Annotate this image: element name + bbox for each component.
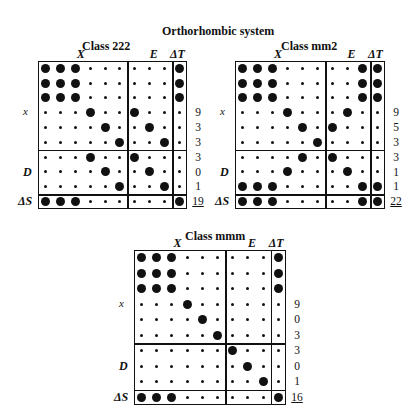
matrix-cell [113, 135, 128, 150]
large-dot-icon [253, 64, 262, 73]
small-dot-icon [262, 256, 265, 259]
matrix-cell [225, 266, 240, 282]
matrix-cell [157, 165, 172, 180]
matrix-cell [310, 120, 325, 135]
small-dot-icon [170, 318, 173, 321]
small-dot-icon [271, 156, 274, 159]
matrix-cell [127, 194, 142, 209]
matrix-cell [83, 105, 98, 120]
matrix-cell [210, 390, 225, 406]
matrix-cell [38, 91, 53, 106]
matrix-cell [280, 105, 295, 120]
small-dot-icon [361, 126, 364, 129]
small-dot-icon [331, 170, 334, 173]
small-dot-icon [346, 82, 349, 85]
large-dot-icon [253, 197, 262, 206]
small-dot-icon [231, 303, 234, 306]
small-dot-icon [178, 170, 181, 173]
matrix-cell [180, 250, 195, 266]
small-dot-icon [186, 256, 189, 259]
matrix-cell [310, 135, 325, 150]
matrix-cell [149, 390, 164, 406]
small-dot-icon [346, 67, 349, 70]
small-dot-icon [331, 96, 334, 99]
matrix-cell [180, 374, 195, 390]
matrix-cell [127, 150, 142, 165]
small-dot-icon [216, 349, 219, 352]
large-dot-icon [328, 123, 337, 132]
small-dot-icon [155, 334, 158, 337]
matrix-cell [98, 61, 113, 76]
small-dot-icon [178, 126, 181, 129]
row-label-delta-s: ΔS [114, 390, 128, 405]
matrix-cell [149, 343, 164, 359]
large-dot-icon [253, 93, 262, 102]
column-label-x: X [274, 47, 282, 62]
matrix-cell [240, 390, 255, 406]
matrix-cell [157, 61, 172, 76]
small-dot-icon [89, 200, 92, 203]
row-count: 3 [191, 151, 205, 163]
small-dot-icon [231, 318, 234, 321]
small-dot-icon [216, 287, 219, 290]
matrix-cell [250, 91, 265, 106]
column-label-delta-t: ΔT [269, 236, 284, 251]
matrix-cell [280, 150, 295, 165]
small-dot-icon [286, 200, 289, 203]
large-dot-icon [228, 346, 237, 355]
matrix-cell [250, 61, 265, 76]
small-dot-icon [331, 200, 334, 203]
small-dot-icon [271, 111, 274, 114]
small-dot-icon [241, 170, 244, 173]
matrix-cell [271, 281, 286, 297]
matrix-cell [98, 105, 113, 120]
small-dot-icon [376, 126, 379, 129]
small-dot-icon [59, 156, 62, 159]
small-dot-icon [170, 334, 173, 337]
small-dot-icon [246, 272, 249, 275]
matrix-cell [157, 105, 172, 120]
small-dot-icon [44, 185, 47, 188]
row-count: 9 [191, 106, 205, 118]
large-dot-icon [137, 284, 146, 293]
matrix-cell [370, 61, 385, 76]
matrix-cell [271, 297, 286, 313]
small-dot-icon [163, 170, 166, 173]
small-dot-icon [163, 156, 166, 159]
large-dot-icon [175, 93, 184, 102]
matrix-cell [256, 390, 271, 406]
matrix-cell [68, 165, 83, 180]
matrix-cell [340, 194, 355, 209]
small-dot-icon [133, 141, 136, 144]
matrix-cell [265, 150, 280, 165]
small-dot-icon [331, 82, 334, 85]
matrix-cell [127, 61, 142, 76]
small-dot-icon [216, 303, 219, 306]
small-dot-icon [231, 272, 234, 275]
small-dot-icon [104, 96, 107, 99]
row-count: 1 [191, 180, 205, 192]
matrix-cell [180, 312, 195, 328]
small-dot-icon [361, 170, 364, 173]
small-dot-icon [346, 96, 349, 99]
small-dot-icon [286, 96, 289, 99]
row-label-delta-s: ΔS [215, 194, 229, 209]
small-dot-icon [277, 303, 280, 306]
large-dot-icon [130, 153, 139, 162]
figure-title: Orthorhombic system [162, 24, 274, 39]
matrix-cell [83, 194, 98, 209]
small-dot-icon [148, 111, 151, 114]
matrix-cell [280, 61, 295, 76]
large-dot-icon [101, 167, 110, 176]
matrix-cell [340, 61, 355, 76]
large-dot-icon [298, 153, 307, 162]
matrix-cell [98, 135, 113, 150]
small-dot-icon [246, 303, 249, 306]
matrix-cell [180, 343, 195, 359]
small-dot-icon [148, 185, 151, 188]
row-count: 1 [389, 180, 403, 192]
matrix-cell [225, 374, 240, 390]
large-dot-icon [56, 79, 65, 88]
matrix-cell [355, 91, 370, 106]
large-dot-icon [152, 393, 161, 402]
